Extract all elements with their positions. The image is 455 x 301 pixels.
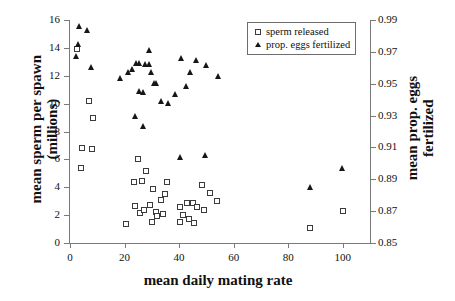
data-point-prop-eggs-fertilized (146, 47, 152, 53)
data-point-sperm-released (143, 168, 149, 174)
y-axis-right-tick (371, 52, 376, 53)
y-axis-left-tick (64, 159, 69, 160)
data-point-sperm-released (199, 182, 205, 188)
y-axis-right-tick (371, 243, 376, 244)
data-point-sperm-released (194, 204, 200, 210)
data-point-sperm-released (177, 204, 183, 210)
y-axis-right-tick-label: 0.87 (378, 204, 418, 216)
y-axis-right-tick-label: 0.99 (378, 13, 418, 25)
data-point-sperm-released (307, 225, 313, 231)
x-axis-tick-label: 20 (105, 251, 145, 263)
y-axis-left-tick (64, 20, 69, 21)
open-square-icon (252, 29, 264, 35)
y-axis-right-tick (371, 147, 376, 148)
data-point-prop-eggs-fertilized (153, 80, 159, 86)
data-point-prop-eggs-fertilized (215, 73, 221, 79)
data-point-prop-eggs-fertilized (140, 89, 146, 95)
data-point-sperm-released (78, 165, 84, 171)
y-axis-left-tick (64, 187, 69, 188)
y-axis-left-tick-label: 6 (20, 152, 60, 164)
x-axis-tick (179, 243, 180, 248)
data-point-sperm-released (191, 220, 197, 226)
data-point-sperm-released (89, 146, 95, 152)
y-axis-right-tick (371, 20, 376, 21)
data-point-sperm-released (131, 179, 137, 185)
data-point-prop-eggs-fertilized (183, 83, 189, 89)
y-axis-left-tick (64, 132, 69, 133)
data-point-prop-eggs-fertilized (132, 113, 138, 119)
scatter-chart-figure: mean sperm per spawn (millions) mean pro… (0, 0, 455, 301)
y-axis-left-tick (64, 48, 69, 49)
data-point-sperm-released (201, 207, 207, 213)
y-axis-right-tick-label: 0.91 (378, 140, 418, 152)
x-axis-tick (70, 243, 71, 248)
data-point-sperm-released (149, 219, 155, 225)
data-point-prop-eggs-fertilized (76, 23, 82, 29)
data-point-prop-eggs-fertilized (75, 41, 81, 47)
x-axis-tick (288, 243, 289, 248)
data-point-sperm-released (214, 198, 220, 204)
legend-label-prop-eggs-fertilized: prop. eggs fertilized (264, 39, 350, 50)
filled-triangle-icon (252, 42, 264, 47)
legend-label-sperm-released: sperm released (264, 26, 329, 37)
x-axis-tick-label: 0 (50, 251, 90, 263)
y-axis-left-tick (64, 215, 69, 216)
data-point-prop-eggs-fertilized (193, 57, 199, 63)
y-axis-left-tick-label: 2 (20, 208, 60, 220)
data-point-prop-eggs-fertilized (73, 53, 79, 59)
x-axis-tick (343, 243, 344, 248)
data-point-prop-eggs-fertilized (146, 61, 152, 67)
x-axis-tick (125, 243, 126, 248)
data-point-prop-eggs-fertilized (158, 98, 164, 104)
y-axis-left-tick-label: 0 (20, 236, 60, 248)
data-point-sperm-released (162, 191, 168, 197)
data-point-prop-eggs-fertilized (172, 91, 178, 97)
data-point-sperm-released (132, 203, 138, 209)
data-point-prop-eggs-fertilized (165, 100, 171, 106)
y-axis-left-tick-label: 16 (20, 13, 60, 25)
data-point-sperm-released (139, 178, 145, 184)
data-point-sperm-released (340, 208, 346, 214)
data-point-prop-eggs-fertilized (202, 152, 208, 158)
x-axis-tick (234, 243, 235, 248)
data-point-sperm-released (158, 197, 164, 203)
y-axis-left-line (69, 20, 70, 244)
data-point-prop-eggs-fertilized (203, 62, 209, 68)
data-point-sperm-released (150, 186, 156, 192)
data-point-prop-eggs-fertilized (339, 165, 345, 171)
x-axis-tick-label: 80 (268, 251, 308, 263)
legend-item-prop-eggs-fertilized: prop. eggs fertilized (252, 38, 350, 51)
y-axis-left-tick-label: 10 (20, 97, 60, 109)
y-axis-right-tick (371, 84, 376, 85)
x-axis-tick-label: 40 (159, 251, 199, 263)
chart-legend: sperm released prop. eggs fertilized (247, 22, 356, 55)
data-point-sperm-released (90, 115, 96, 121)
data-point-sperm-released (164, 179, 170, 185)
y-axis-left-tick (64, 76, 69, 77)
data-point-prop-eggs-fertilized (129, 66, 135, 72)
y-axis-left-tick (64, 104, 69, 105)
data-point-sperm-released (135, 156, 141, 162)
data-point-prop-eggs-fertilized (84, 27, 90, 33)
data-point-sperm-released (141, 207, 147, 213)
data-point-sperm-released (123, 221, 129, 227)
y-axis-right-tick (371, 179, 376, 180)
y-axis-right-tick-label: 0.95 (378, 77, 418, 89)
y-axis-right-tick (371, 211, 376, 212)
data-point-sperm-released (207, 190, 213, 196)
data-point-sperm-released (177, 219, 183, 225)
data-point-sperm-released (86, 98, 92, 104)
y-axis-right-tick-label: 0.89 (378, 172, 418, 184)
y-axis-right-tick-label: 0.97 (378, 45, 418, 57)
y-axis-right-tick-label: 0.93 (378, 109, 418, 121)
data-point-prop-eggs-fertilized (177, 154, 183, 160)
x-axis-line (69, 243, 371, 244)
y-axis-left-tick-label: 14 (20, 41, 60, 53)
x-axis-tick-label: 60 (214, 251, 254, 263)
y-axis-right-tick-label: 0.85 (378, 236, 418, 248)
y-axis-left-tick (64, 243, 69, 244)
data-point-prop-eggs-fertilized (88, 64, 94, 70)
data-point-prop-eggs-fertilized (307, 184, 313, 190)
data-point-sperm-released (147, 202, 153, 208)
data-point-prop-eggs-fertilized (178, 55, 184, 61)
